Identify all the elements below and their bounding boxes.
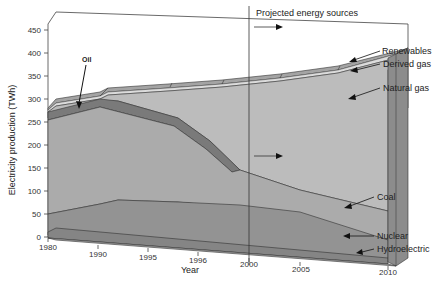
natural-gas-label: Natural gas <box>383 83 430 93</box>
projection-arrow-top <box>254 24 283 30</box>
hydroelectric-label: Hydroelectric <box>377 244 430 254</box>
svg-text:0: 0 <box>37 233 42 242</box>
renewables-label: Renewables <box>382 46 432 56</box>
svg-text:1996: 1996 <box>189 256 207 265</box>
oil-label: Oil <box>82 56 91 63</box>
svg-text:300: 300 <box>28 95 42 104</box>
nuclear-label: Nuclear <box>377 231 408 241</box>
svg-text:350: 350 <box>28 72 42 81</box>
svg-text:150: 150 <box>28 164 42 173</box>
svg-text:400: 400 <box>28 49 42 58</box>
derived-gas-label: Derived gas <box>383 59 432 69</box>
energy-chart: 0 50 100 150 200 250 300 350 400 450 Ele… <box>0 0 444 286</box>
svg-text:2000: 2000 <box>240 260 258 269</box>
y-ticks <box>44 30 48 237</box>
svg-text:450: 450 <box>28 26 42 35</box>
y-tick-labels: 0 50 100 150 200 250 300 350 400 450 <box>28 26 42 242</box>
svg-text:2005: 2005 <box>292 265 310 274</box>
svg-text:100: 100 <box>28 187 42 196</box>
svg-text:2010: 2010 <box>379 268 397 277</box>
svg-text:200: 200 <box>28 141 42 150</box>
svg-text:50: 50 <box>32 210 41 219</box>
x-axis-label: Year <box>181 265 199 275</box>
coal-label: Coal <box>377 192 396 202</box>
svg-text:1995: 1995 <box>139 253 157 262</box>
svg-text:1990: 1990 <box>89 250 107 259</box>
y-axis-label: Electricity production (TWh) <box>7 85 17 196</box>
svg-text:250: 250 <box>28 118 42 127</box>
projected-label: Projected energy sources <box>256 8 359 18</box>
svg-text:1980: 1980 <box>39 243 57 252</box>
